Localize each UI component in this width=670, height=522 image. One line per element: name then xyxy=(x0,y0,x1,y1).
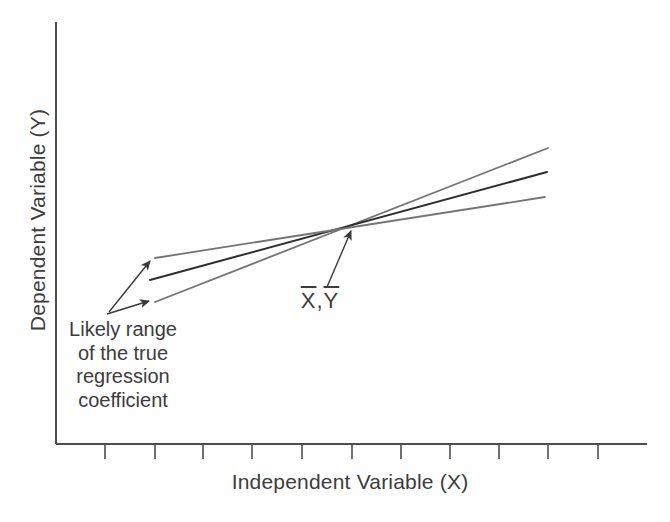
regression-range-figure: Dependent Variable (Y) Independent Varia… xyxy=(0,0,670,522)
range-annotation: Likely range of the true regression coef… xyxy=(69,318,177,412)
range-annotation-line: of the true xyxy=(69,342,177,366)
range-annotation-line: regression xyxy=(69,365,177,389)
chart-canvas xyxy=(0,0,670,522)
mean-point-arrow xyxy=(327,231,351,287)
y-bar-symbol: Y xyxy=(324,288,340,313)
range-lower-slope-line xyxy=(155,197,545,258)
mean-point-label: X,Y xyxy=(301,288,340,314)
mean-label-comma: , xyxy=(316,288,323,313)
range-annotation-line: coefficient xyxy=(69,389,177,413)
range-annotation-line: Likely range xyxy=(69,318,177,342)
x-axis-label: Independent Variable (X) xyxy=(232,470,469,494)
x-bar-symbol: X xyxy=(301,288,317,313)
y-axis-label: Dependent Variable (Y) xyxy=(26,109,50,331)
estimated-regression-line xyxy=(150,172,547,280)
regression-lines xyxy=(150,148,548,302)
range-arrow-upper xyxy=(109,261,150,312)
